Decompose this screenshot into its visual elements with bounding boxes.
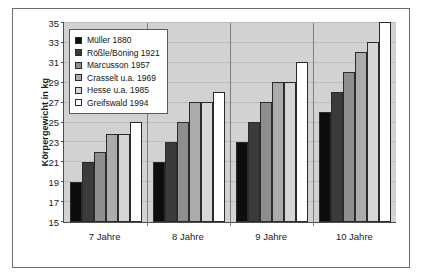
bar bbox=[70, 182, 82, 222]
bar bbox=[355, 52, 367, 222]
x-axis-tick-label: 7 Jahre bbox=[63, 231, 146, 249]
bar bbox=[296, 62, 308, 222]
x-axis-tick-label: 9 Jahre bbox=[230, 231, 313, 249]
x-axis-tick-label: 10 Jahre bbox=[313, 231, 396, 249]
x-axis-labels: 7 Jahre8 Jahre9 Jahre10 Jahre bbox=[63, 231, 396, 249]
bar bbox=[343, 72, 355, 222]
y-axis-tick-label: 33 bbox=[48, 38, 59, 48]
x-axis-tick-label: 8 Jahre bbox=[146, 231, 229, 249]
y-axis-tick-label: 23 bbox=[48, 138, 59, 148]
legend: Müller 1880Rößle/Böning 1921Marcusson 19… bbox=[69, 29, 168, 114]
chart-figure: Körpergewicht in kg 35333129272523211917… bbox=[12, 8, 410, 268]
bar bbox=[272, 82, 284, 222]
legend-swatch-icon bbox=[75, 62, 82, 69]
legend-swatch-icon bbox=[75, 74, 82, 81]
legend-item: Crasselt u.a. 1969 bbox=[75, 72, 160, 85]
legend-item: Rößle/Böning 1921 bbox=[75, 47, 160, 60]
legend-item: Greifswald 1994 bbox=[75, 97, 160, 110]
y-axis-tick-label: 21 bbox=[48, 158, 59, 168]
bar bbox=[201, 102, 213, 222]
bar bbox=[106, 134, 118, 222]
bar bbox=[82, 162, 94, 222]
y-axis-tick-label: 35 bbox=[48, 18, 59, 28]
bar bbox=[260, 102, 272, 222]
bar bbox=[331, 92, 343, 222]
legend-item-label: Rößle/Böning 1921 bbox=[87, 49, 160, 58]
legend-swatch-icon bbox=[75, 99, 82, 106]
y-axis-tick-label: 29 bbox=[48, 78, 59, 88]
bar bbox=[118, 134, 130, 222]
y-axis-tick-label: 25 bbox=[48, 118, 59, 128]
legend-swatch-icon bbox=[75, 49, 82, 56]
legend-item-label: Greifswald 1994 bbox=[87, 99, 148, 108]
bar-group bbox=[313, 23, 396, 222]
bar bbox=[213, 92, 225, 222]
bar bbox=[189, 102, 201, 222]
y-axis-tick-label: 17 bbox=[48, 197, 59, 207]
bar bbox=[177, 122, 189, 222]
legend-swatch-icon bbox=[75, 87, 82, 94]
y-axis-tick-label: 19 bbox=[48, 177, 59, 187]
legend-item: Marcusson 1957 bbox=[75, 59, 160, 72]
legend-item-label: Hesse u.a. 1985 bbox=[87, 86, 149, 95]
y-axis-tick-label: 15 bbox=[48, 217, 59, 227]
bar bbox=[153, 162, 165, 222]
legend-item: Hesse u.a. 1985 bbox=[75, 84, 160, 97]
bar-group bbox=[230, 23, 313, 222]
y-axis-tick-label: 31 bbox=[48, 58, 59, 68]
legend-item-label: Crasselt u.a. 1969 bbox=[87, 74, 156, 83]
y-axis-tick-label: 27 bbox=[48, 98, 59, 108]
legend-item-label: Marcusson 1957 bbox=[87, 61, 150, 70]
bar bbox=[248, 122, 260, 222]
bar bbox=[367, 42, 379, 222]
bar bbox=[319, 112, 331, 222]
bar bbox=[236, 142, 248, 222]
legend-item: Müller 1880 bbox=[75, 34, 160, 47]
legend-item-label: Müller 1880 bbox=[87, 36, 131, 45]
bar bbox=[379, 22, 391, 222]
bar bbox=[165, 142, 177, 222]
bar bbox=[94, 152, 106, 222]
legend-swatch-icon bbox=[75, 37, 82, 44]
bar bbox=[130, 122, 142, 222]
bar bbox=[284, 82, 296, 222]
